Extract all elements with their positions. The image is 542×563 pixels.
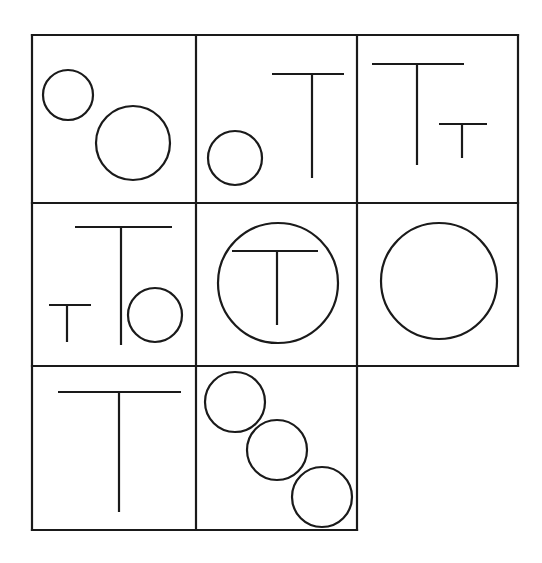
matrix-figure-canvas	[0, 0, 542, 563]
matrix-figure-root: Matrix reasoning figure Hand-drawn 3 by …	[0, 0, 542, 563]
